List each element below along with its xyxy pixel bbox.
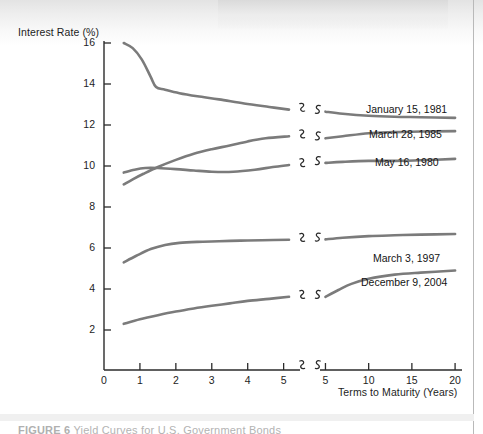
figure-caption: FIGURE 6 Yield Curves for U.S. Governmen… (18, 424, 281, 434)
axis-break-marks (300, 103, 320, 368)
axes-layer (104, 41, 462, 370)
x-tick-label: 2 (164, 374, 188, 386)
y-tick-label: 12 (73, 118, 95, 130)
series-label: January 15, 1981 (366, 103, 447, 115)
series-label: March 3, 1997 (373, 252, 440, 264)
x-tick-label: 5 (313, 374, 337, 386)
yield-curve-plot (0, 0, 483, 434)
series-label: March 28, 1985 (369, 128, 442, 140)
y-tick-label: 16 (73, 36, 95, 48)
y-tick-label: 14 (73, 77, 95, 89)
x-tick-label: 4 (236, 374, 260, 386)
x-tick-label: 10 (357, 374, 381, 386)
series-label: May 16, 1980 (375, 156, 439, 168)
x-tick-label: 15 (400, 374, 424, 386)
figure-caption-label: FIGURE 6 (18, 424, 70, 434)
figure-caption-text: Yield Curves for U.S. Government Bonds (73, 424, 281, 434)
y-tick-label: 4 (73, 282, 95, 294)
y-tick-label: 6 (73, 241, 95, 253)
x-tick-label: 20 (443, 374, 467, 386)
x-tick-label: 0 (92, 374, 116, 386)
caption-divider (0, 414, 474, 421)
x-tick-label: 3 (200, 374, 224, 386)
x-tick-label: 5 (272, 374, 296, 386)
y-tick-label: 2 (73, 323, 95, 335)
figure-root: Interest Rate (%) Terms to Maturity (Yea… (0, 0, 483, 434)
series-label: December 9, 2004 (361, 276, 447, 288)
y-tick-label: 10 (73, 159, 95, 171)
x-tick-label: 1 (128, 374, 152, 386)
y-tick-label: 8 (73, 200, 95, 212)
